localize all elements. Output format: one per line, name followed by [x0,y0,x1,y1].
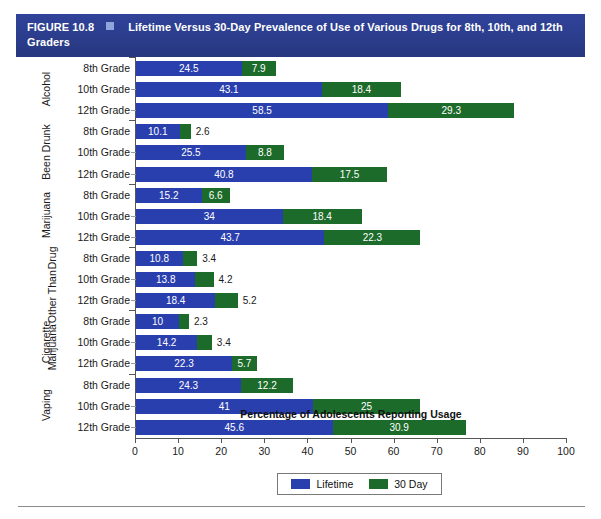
row-tick [131,406,136,407]
bar-segment-lifetime: 18.4 [136,293,215,308]
bar-segment-lifetime: 40.8 [136,167,312,182]
bar-segment-lifetime: 24.5 [136,61,242,76]
x-tick-mark [264,438,265,443]
grade-label: 8th Grade [60,376,130,395]
x-tick-mark [394,438,395,443]
grade-label: 8th Grade [60,249,130,268]
row-tick [131,427,136,428]
x-tick-label: 40 [287,445,327,457]
x-tick-mark [178,438,179,443]
bar-value-lifetime: 10.8 [136,251,183,266]
x-tick-label: 20 [201,445,241,457]
bar-value-30-day: 2.3 [189,314,208,329]
chart-legend: Lifetime 30 Day [277,473,442,495]
grade-label: 10th Grade [60,270,130,289]
grade-label: 8th Grade [60,59,130,78]
x-tick-label: 50 [331,445,371,457]
x-tick-mark [566,438,567,443]
grade-label: 10th Grade [60,397,130,416]
bar-value-30-day: 6.6 [202,188,230,203]
x-tick-label: 30 [244,445,284,457]
legend-swatch-lifetime-icon [291,479,310,489]
row-tick [131,174,136,175]
bar-value-30-day: 4.2 [214,272,233,287]
figure-header-bar: FIGURE 10.8Lifetime Versus 30-Day Preval… [16,14,585,57]
bar-value-lifetime: 58.5 [136,103,388,118]
bar-value-lifetime: 14.2 [136,335,197,350]
bar-segment-lifetime: 14.2 [136,335,197,350]
group-label-vaping: Vaping [40,373,52,437]
x-tick-mark [135,438,136,443]
bar-segment-30-day: 30.9 [333,420,466,435]
x-tick-label: 60 [374,445,414,457]
bar-value-30-day: 29.3 [388,103,514,118]
group-separator-tick [129,247,136,248]
bar-segment-30-day: 12.2 [241,378,294,393]
chart-plot-area: 8th Grade24.57.910th Grade43.118.412th G… [0,55,601,455]
row-tick [131,237,136,238]
bar-segment-lifetime: 58.5 [136,103,388,118]
bar-value-30-day: 5.2 [238,293,257,308]
x-tick-mark [480,438,481,443]
row-tick [131,363,136,364]
bar-segment-30-day: 29.3 [388,103,514,118]
figure-number: FIGURE 10.8 [27,21,94,33]
grade-label: 10th Grade [60,143,130,162]
bar-value-30-day: 2.6 [191,124,210,139]
x-tick-mark [221,438,222,443]
bar-value-lifetime: 34 [136,209,283,224]
bar-segment-lifetime: 34 [136,209,283,224]
bar-value-30-day: 5.7 [232,356,257,371]
bar-segment-30-day: 3.4 [183,251,198,266]
group-label-alcohol: Alcohol [40,57,52,121]
grade-label: 12th Grade [60,228,130,247]
group-label-drug-other-than-marijuana: DrugOther ThanMarijuana [47,246,58,310]
bar-segment-30-day: 18.4 [322,82,401,97]
grade-label: 12th Grade [60,354,130,373]
row-tick [131,110,136,111]
x-tick-label: 10 [158,445,198,457]
group-separator-tick [129,310,136,311]
group-label-marijuana: Marijuana [40,183,52,247]
group-separator-tick [129,57,136,58]
grade-label: 8th Grade [60,122,130,141]
bar-value-30-day: 18.4 [283,209,362,224]
group-label-been-drunk: Been Drunk [40,120,52,184]
bar-segment-lifetime: 43.7 [136,230,324,245]
group-separator-tick [129,374,136,375]
bar-segment-lifetime: 24.3 [136,378,241,393]
bar-value-lifetime: 24.5 [136,61,242,76]
bar-segment-30-day: 22.3 [324,230,420,245]
bar-segment-30-day: 17.5 [312,167,387,182]
bar-value-lifetime: 45.6 [136,420,333,435]
bar-value-30-day: 18.4 [322,82,401,97]
bar-segment-lifetime: 10.1 [136,124,180,139]
x-tick-mark [437,438,438,443]
legend-swatch-30-day-icon [369,479,388,489]
bar-segment-lifetime: 22.3 [136,356,232,371]
bar-segment-30-day: 2.3 [179,314,189,329]
row-tick [131,152,136,153]
grade-label: 10th Grade [60,80,130,99]
bar-segment-lifetime: 10.8 [136,251,183,266]
bar-value-lifetime: 40.8 [136,167,312,182]
grade-label: 8th Grade [60,312,130,331]
bar-segment-30-day: 8.8 [246,145,284,160]
legend-item-lifetime: Lifetime [291,478,353,490]
bar-value-lifetime: 10.1 [136,124,180,139]
bar-segment-30-day: 5.7 [232,356,257,371]
bar-value-lifetime: 18.4 [136,293,215,308]
bar-segment-30-day: 18.4 [283,209,362,224]
group-label-cigarette: Cigarette [40,310,52,374]
bar-segment-lifetime: 15.2 [136,188,202,203]
bar-segment-30-day: 2.6 [180,124,191,139]
bar-value-30-day: 12.2 [241,378,294,393]
row-tick [131,300,136,301]
group-label-line: Drug [47,246,58,269]
figure-header-text: FIGURE 10.8Lifetime Versus 30-Day Preval… [27,20,575,50]
grade-label: 12th Grade [60,165,130,184]
x-axis-title: Percentage of Adolescents Reporting Usag… [135,408,567,420]
x-tick-label: 90 [503,445,543,457]
x-tick-mark [307,438,308,443]
bar-segment-30-day: 7.9 [242,61,276,76]
